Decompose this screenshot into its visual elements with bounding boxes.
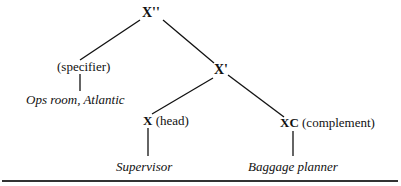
node-specifier: (specifier)	[57, 60, 110, 74]
node-complement-leaf: Baggage planner	[248, 160, 338, 174]
node-head-symbol: X	[143, 113, 152, 128]
node-complement-role: (complement)	[302, 115, 375, 130]
node-root: X''	[142, 6, 160, 20]
node-xbar: X'	[214, 63, 228, 77]
edge-root-xbar	[163, 20, 214, 63]
node-head: X (head)	[143, 114, 189, 128]
node-head-role: (head)	[156, 113, 189, 128]
node-head-leaf: Supervisor	[116, 160, 172, 174]
node-specifier-leaf: Ops room, Atlantic	[26, 93, 125, 107]
node-complement: XC (complement)	[280, 116, 375, 130]
node-complement-symbol: XC	[280, 115, 299, 130]
edge-root-specifier	[80, 20, 140, 60]
horizontal-rule	[2, 180, 398, 182]
edge-xbar-head	[152, 78, 213, 114]
edge-xbar-complement	[228, 75, 284, 117]
